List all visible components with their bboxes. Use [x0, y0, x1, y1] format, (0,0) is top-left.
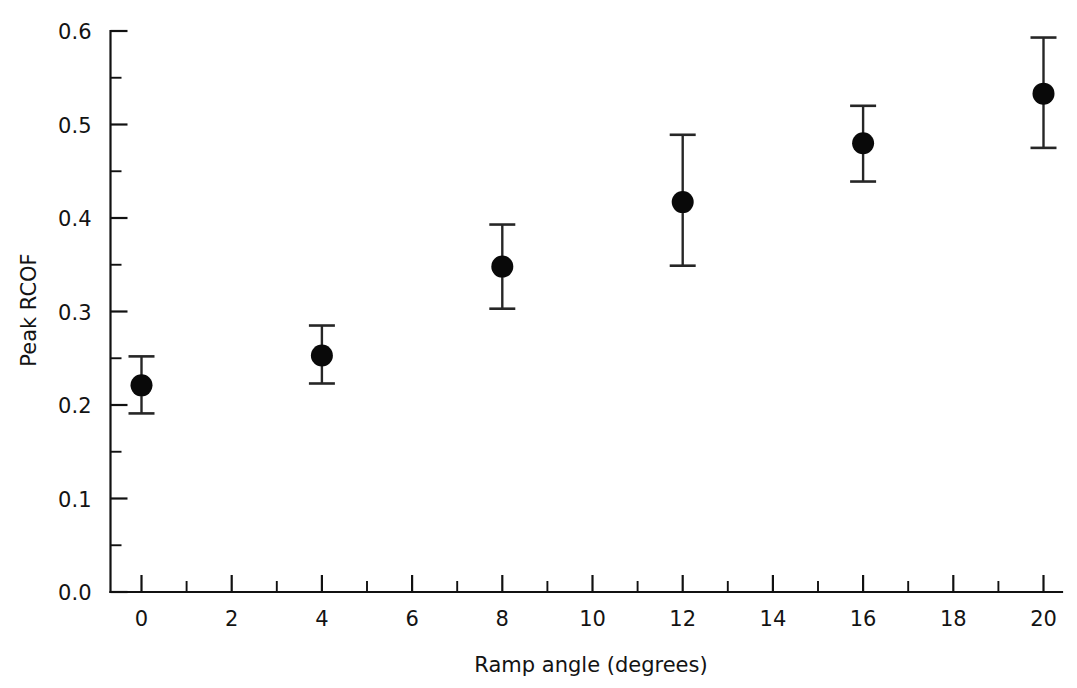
data-series	[129, 38, 1057, 414]
x-tick-label: 2	[225, 607, 238, 631]
data-point-group	[670, 135, 696, 266]
x-tick-label: 12	[669, 607, 696, 631]
y-tick-label: 0.2	[58, 394, 91, 418]
data-point-marker	[852, 132, 874, 154]
tick-marks	[111, 31, 1044, 592]
y-tick-label: 0.0	[58, 581, 91, 605]
y-tick-label: 0.6	[58, 20, 91, 44]
y-tick-label: 0.4	[58, 207, 91, 231]
data-point-group	[129, 356, 155, 413]
data-point-marker	[131, 374, 153, 396]
x-tick-label: 4	[315, 607, 328, 631]
x-tick-label: 14	[760, 607, 787, 631]
tick-labels: 0.00.10.20.30.40.50.602468101214161820	[58, 20, 1057, 631]
y-tick-label: 0.1	[58, 488, 91, 512]
x-axis-title: Ramp angle (degrees)	[474, 653, 707, 677]
data-point-group	[1031, 38, 1057, 148]
axes	[111, 31, 1063, 592]
y-tick-label: 0.3	[58, 301, 91, 325]
x-tick-label: 20	[1030, 607, 1057, 631]
data-point-marker	[1033, 83, 1055, 105]
data-point-group	[309, 326, 335, 384]
x-tick-label: 18	[940, 607, 967, 631]
data-point-group	[489, 225, 515, 309]
x-tick-label: 6	[405, 607, 418, 631]
chart-figure: 0.00.10.20.30.40.50.602468101214161820 R…	[0, 0, 1077, 688]
y-tick-label: 0.5	[58, 114, 91, 138]
data-point-marker	[311, 344, 333, 366]
data-point-group	[850, 106, 876, 182]
x-tick-label: 8	[496, 607, 509, 631]
y-axis-title: Peak RCOF	[17, 253, 41, 366]
data-point-marker	[491, 256, 513, 278]
x-tick-label: 16	[850, 607, 877, 631]
x-tick-label: 10	[579, 607, 606, 631]
scatter-plot-with-error-bars: 0.00.10.20.30.40.50.602468101214161820 R…	[0, 0, 1077, 688]
x-tick-label: 0	[135, 607, 148, 631]
data-point-marker	[672, 191, 694, 213]
